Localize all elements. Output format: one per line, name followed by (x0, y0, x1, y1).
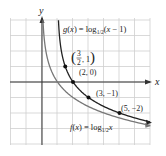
point-label-5-neg2: (5, −2) (121, 104, 143, 113)
svg-text:): ) (90, 49, 95, 66)
g-label: g(x) = log1/2(x − 1) (63, 24, 127, 35)
point-label-2-0: (2, 0) (79, 68, 97, 77)
y-axis-arrow-icon (40, 16, 45, 23)
y-axis-label: y (38, 5, 44, 16)
point-label-3-2-1: ( 3 2 , 1 ) (71, 49, 95, 67)
log-graph: x y g(x) = log1/2(x − 1) f(x) = log1/2x … (0, 0, 166, 156)
svg-text:2: 2 (77, 58, 81, 67)
data-point (71, 80, 75, 84)
data-point (87, 96, 91, 100)
g-curve-arrow-icon (146, 120, 152, 125)
data-point (63, 65, 67, 69)
x-axis-label: x (154, 76, 160, 87)
x-axis-arrow-icon (145, 80, 152, 85)
svg-text:(: ( (71, 49, 76, 66)
f-label: f(x) = log1/2x (70, 122, 113, 133)
point-label-3-neg1: (3, −1) (96, 89, 118, 98)
svg-text:,: , (82, 55, 84, 64)
